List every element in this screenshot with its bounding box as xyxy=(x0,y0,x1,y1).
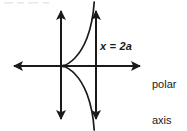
curve-upper-branch xyxy=(63,2,95,66)
polar-axis-label: polar axis xyxy=(152,54,176,131)
curve-lower-branch xyxy=(63,66,95,130)
curve-cusp-vertex xyxy=(61,65,65,66)
polar-conic-figure: x = 2a polar axis xyxy=(0,0,187,131)
asymptote-label: x = 2a xyxy=(100,41,132,52)
polar-axis-label-line1: polar xyxy=(152,78,176,90)
polar-axis-label-line2: axis xyxy=(152,114,176,126)
scan-artifacts xyxy=(4,2,49,4)
